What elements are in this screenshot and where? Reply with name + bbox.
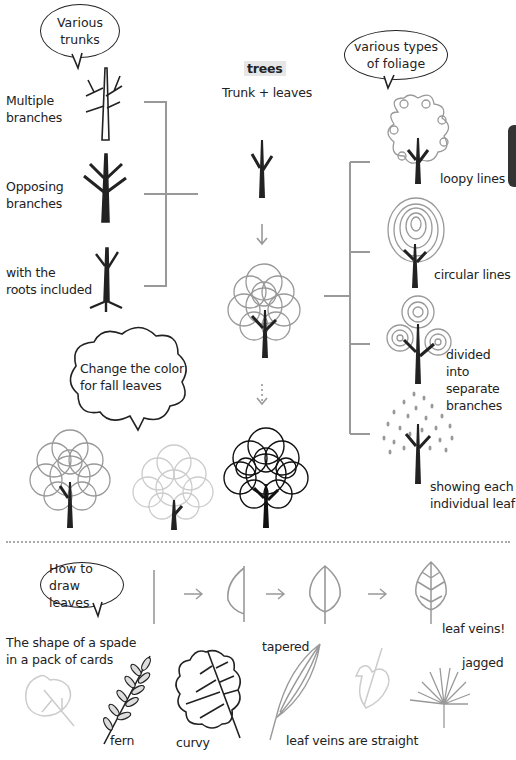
trunk-label-multiple: Multiple branches bbox=[6, 92, 62, 126]
arrow-down-dotted-icon bbox=[255, 382, 269, 408]
trunk-with-roots-icon bbox=[84, 246, 128, 316]
leaf-step-4-veins-icon bbox=[414, 560, 448, 626]
trunk-label-roots: with the roots included bbox=[6, 264, 92, 298]
straight-veins-label: leaf veins are straight bbox=[286, 732, 418, 749]
individual-leaf-tree-icon bbox=[380, 390, 460, 486]
divided-branches-tree-icon bbox=[386, 294, 452, 388]
various-trunks-bubble: Various trunks bbox=[40, 4, 120, 58]
arrow-right-icon bbox=[182, 588, 204, 600]
page-title: trees bbox=[244, 60, 286, 77]
various-foliage-bubble: various types of foliage bbox=[344, 30, 448, 80]
bubble-tail bbox=[92, 602, 104, 618]
trunks-bracket bbox=[142, 100, 202, 290]
center-trunk-icon bbox=[246, 138, 276, 202]
jagged-heart-leaf-icon bbox=[346, 646, 396, 712]
foliage-bracket bbox=[322, 160, 372, 440]
side-tab bbox=[508, 125, 516, 187]
fall-bubble-text: Change the color for fall leaves bbox=[80, 360, 184, 394]
fall-tree-dark-icon bbox=[222, 424, 310, 530]
leaf-step-1-line-icon bbox=[150, 568, 158, 626]
curvy-leaf-icon bbox=[172, 648, 246, 740]
arrow-right-icon bbox=[366, 588, 388, 600]
arrow-right-icon bbox=[264, 588, 286, 600]
tapered-leaf-icon bbox=[268, 642, 324, 742]
trunk-label-opposing: Opposing branches bbox=[6, 178, 64, 212]
foliage-label-individual: showing each individual leaf bbox=[430, 478, 515, 512]
foliage-label-circular: circular lines bbox=[434, 266, 511, 283]
trunk-opposing-branches-icon bbox=[80, 152, 130, 226]
center-scribble-tree-icon bbox=[224, 258, 304, 364]
bubble-tail bbox=[382, 74, 396, 90]
page-subtitle: Trunk + leaves bbox=[222, 84, 312, 101]
trunk-multiple-branches-icon bbox=[80, 66, 130, 146]
section-divider bbox=[6, 541, 510, 543]
fern-label: fern bbox=[110, 732, 134, 749]
foliage-label-loopy: loopy lines bbox=[440, 170, 505, 187]
leaf-veins-label: leaf veins! bbox=[442, 620, 505, 637]
spade-leaf-icon bbox=[22, 672, 78, 728]
fall-tree-gray-icon bbox=[28, 426, 112, 530]
jagged-palm-leaf-icon bbox=[408, 664, 474, 730]
curvy-label: curvy bbox=[176, 734, 210, 751]
how-to-draw-leaves-bubble: How to draw leaves bbox=[40, 562, 124, 608]
arrow-down-icon bbox=[255, 222, 269, 246]
fall-tree-light-icon bbox=[132, 440, 214, 532]
leaf-step-3-outline-icon bbox=[308, 564, 342, 626]
leaf-step-2-half-icon bbox=[224, 564, 248, 624]
